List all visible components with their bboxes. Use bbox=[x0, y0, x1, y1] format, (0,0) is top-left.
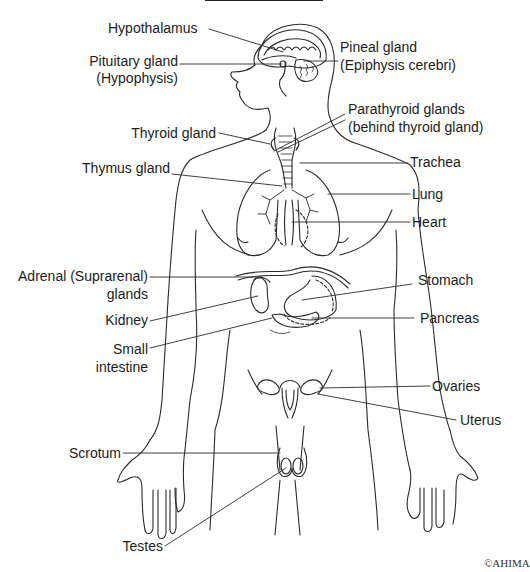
label-small-intestine-2: intestine bbox=[60, 359, 148, 376]
label-pineal-gland: Pineal gland bbox=[340, 39, 417, 56]
label-kidney: Kidney bbox=[60, 312, 148, 329]
label-scrotum: Scrotum bbox=[40, 445, 121, 462]
label-parathyroid-glands: Parathyroid glands bbox=[348, 101, 465, 118]
label-uterus: Uterus bbox=[460, 412, 501, 429]
label-testes: Testes bbox=[80, 538, 163, 555]
label-pancreas: Pancreas bbox=[420, 310, 479, 327]
heart bbox=[275, 200, 308, 248]
label-pineal-alt: (Epiphysis cerebri) bbox=[340, 57, 456, 74]
left-arm bbox=[118, 440, 185, 539]
trachea-thyroid bbox=[271, 128, 299, 188]
label-pituitary-alt: (Hypophysis) bbox=[83, 70, 178, 87]
label-stomach: Stomach bbox=[418, 272, 473, 289]
label-thyroid-gland: Thyroid gland bbox=[100, 125, 216, 142]
copyright-notice: ©AHIMA bbox=[484, 557, 530, 569]
label-hypothalamus: Hypothalamus bbox=[108, 20, 198, 37]
label-small-intestine: Small bbox=[60, 341, 148, 358]
label-thymus-gland: Thymus gland bbox=[70, 160, 170, 177]
label-heart: Heart bbox=[412, 214, 446, 231]
right-arm bbox=[407, 430, 478, 532]
label-ovaries: Ovaries bbox=[432, 378, 480, 395]
label-adrenal-glands: Adrenal (Suprarenal) bbox=[4, 268, 148, 285]
torso-outline bbox=[150, 130, 450, 535]
label-lung: Lung bbox=[412, 186, 443, 203]
label-adrenal-glands-2: glands bbox=[4, 286, 148, 303]
head-outline bbox=[231, 24, 352, 142]
pelvis bbox=[248, 370, 332, 477]
label-trachea: Trachea bbox=[410, 154, 461, 171]
label-pituitary-gland: Pituitary gland bbox=[83, 53, 178, 70]
label-parathyroid-note: (behind thyroid gland) bbox=[348, 119, 483, 136]
